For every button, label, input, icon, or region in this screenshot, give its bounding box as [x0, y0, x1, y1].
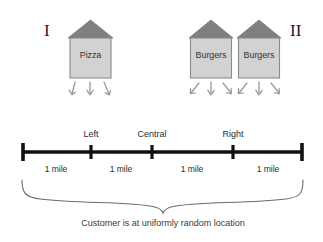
location-game-diagram: I II Pizza Burgers Burgers Left Central …: [0, 0, 323, 242]
tick-label-right: Right: [222, 130, 243, 139]
tick-label-central: Central: [137, 130, 166, 139]
panel-numeral-ii: II: [290, 22, 301, 39]
panel-numeral-i: I: [44, 22, 50, 39]
burger-shop-left-label: Burgers: [196, 51, 227, 60]
tick-label-left: Left: [83, 130, 98, 139]
segment-label-4: 1 mile: [257, 165, 280, 174]
diagram-text-layer: I II Pizza Burgers Burgers Left Central …: [0, 0, 323, 242]
burger-shop-right-label: Burgers: [244, 51, 275, 60]
segment-label-3: 1 mile: [181, 165, 204, 174]
pizza-shop-label: Pizza: [80, 51, 102, 60]
segment-label-2: 1 mile: [110, 165, 133, 174]
uniform-location-caption: Customer is at uniformly random location: [81, 219, 245, 228]
segment-label-1: 1 mile: [45, 165, 68, 174]
